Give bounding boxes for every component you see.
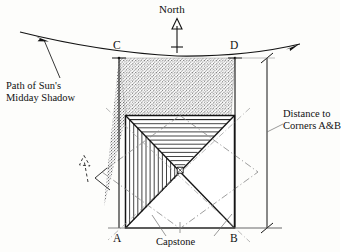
shadow-path-leader-line bbox=[44, 40, 60, 78]
vertex-label-d: D bbox=[230, 39, 239, 52]
distance-dimension-line bbox=[235, 53, 283, 233]
shadow-direction-arrow-icon bbox=[80, 156, 111, 191]
distance-label-leader-line bbox=[267, 124, 283, 132]
pyramid-plan bbox=[126, 116, 235, 229]
vertex-label-b: B bbox=[230, 232, 238, 245]
vertex-label-a: A bbox=[113, 232, 122, 245]
distance-to-corners-label: Distance to Corners A&B bbox=[283, 108, 341, 132]
north-arrow-icon bbox=[171, 19, 183, 54]
shadow-path-label: Path of Sun's Midday Shadow bbox=[6, 80, 75, 104]
capstone-marker bbox=[177, 167, 183, 173]
vertex-label-c: C bbox=[113, 39, 121, 52]
capstone-label: Capstone bbox=[156, 236, 195, 248]
north-label: North bbox=[159, 3, 185, 15]
